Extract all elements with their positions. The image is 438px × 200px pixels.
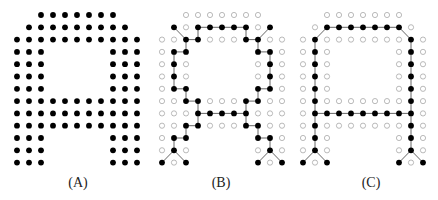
hollow-dot: [360, 123, 365, 128]
hollow-dot: [348, 37, 353, 42]
hollow-dot: [159, 62, 164, 67]
filled-dot: [312, 74, 318, 80]
hollow-dot: [255, 25, 260, 30]
hollow-dot: [372, 37, 377, 42]
filled-dot: [396, 24, 402, 30]
filled-dot: [267, 24, 273, 30]
filled-dot: [86, 98, 92, 104]
filled-dot: [219, 111, 225, 117]
hollow-dot: [396, 123, 401, 128]
filled-dot: [14, 49, 20, 55]
filled-dot: [312, 37, 318, 43]
filled-dot: [86, 12, 92, 18]
filled-dot: [62, 37, 68, 43]
hollow-dot: [267, 111, 272, 116]
dot-grid-figure: [0, 0, 438, 200]
hollow-dot: [231, 37, 236, 42]
hollow-dot: [408, 25, 413, 30]
filled-dot: [26, 160, 32, 166]
hollow-dot: [231, 123, 236, 128]
filled-dot: [38, 98, 44, 104]
filled-dot: [26, 86, 32, 92]
hollow-dot: [279, 86, 284, 91]
filled-dot: [74, 24, 80, 30]
hollow-dot: [171, 111, 176, 116]
filled-dot: [255, 98, 261, 104]
hollow-dot: [171, 37, 176, 42]
hollow-dot: [324, 86, 329, 91]
filled-dot: [14, 37, 20, 43]
hollow-dot: [255, 74, 260, 79]
hollow-dot: [372, 12, 377, 17]
hollow-dot: [267, 37, 272, 42]
hollow-dot: [159, 49, 164, 54]
hollow-dot: [324, 49, 329, 54]
hollow-dot: [396, 148, 401, 153]
filled-dot: [134, 160, 140, 166]
filled-dot: [267, 49, 273, 55]
filled-dot: [38, 135, 44, 141]
filled-dot: [122, 160, 128, 166]
hollow-dot: [231, 12, 236, 17]
filled-dot: [26, 147, 32, 153]
filled-dot: [207, 24, 213, 30]
filled-dot: [122, 135, 128, 141]
filled-dot: [38, 37, 44, 43]
filled-dot: [26, 111, 32, 117]
filled-dot: [348, 111, 354, 117]
hollow-dot: [171, 99, 176, 104]
filled-dot: [26, 37, 32, 43]
hollow-dot: [300, 148, 305, 153]
hollow-dot: [300, 135, 305, 140]
filled-dot: [26, 98, 32, 104]
filled-dot: [312, 111, 318, 117]
hollow-dot: [312, 160, 317, 165]
filled-dot: [408, 37, 414, 43]
filled-dot: [38, 123, 44, 129]
filled-dot: [183, 160, 189, 166]
filled-dot: [408, 86, 414, 92]
filled-dot: [243, 98, 249, 104]
filled-dot: [171, 49, 177, 55]
filled-dot: [110, 86, 116, 92]
filled-dot: [255, 49, 261, 55]
hollow-dot: [396, 86, 401, 91]
filled-dot: [312, 147, 318, 153]
filled-dot: [267, 74, 273, 80]
filled-dot: [38, 111, 44, 117]
filled-dot: [312, 86, 318, 92]
filled-dot: [38, 24, 44, 30]
hollow-dot: [396, 37, 401, 42]
hollow-dot: [300, 37, 305, 42]
filled-dot: [122, 98, 128, 104]
hollow-dot: [159, 99, 164, 104]
filled-dot: [38, 49, 44, 55]
filled-dot: [408, 98, 414, 104]
hollow-dot: [324, 123, 329, 128]
filled-dot: [312, 98, 318, 104]
filled-dot: [255, 37, 261, 43]
filled-dot: [134, 37, 140, 43]
hollow-dot: [420, 74, 425, 79]
filled-dot: [183, 49, 189, 55]
filled-dot: [171, 74, 177, 80]
panel-b-stair-path: [159, 12, 285, 165]
panel-a-label: (A): [68, 175, 87, 191]
filled-dot: [195, 98, 201, 104]
filled-dot: [98, 24, 104, 30]
filled-dot: [134, 147, 140, 153]
filled-dot: [134, 111, 140, 117]
filled-dot: [324, 24, 330, 30]
filled-dot: [98, 111, 104, 117]
filled-dot: [122, 61, 128, 67]
filled-dot: [122, 24, 128, 30]
hollow-dot: [372, 123, 377, 128]
filled-dot: [110, 37, 116, 43]
filled-dot: [384, 24, 390, 30]
filled-dot: [312, 123, 318, 129]
filled-dot: [62, 12, 68, 18]
filled-dot: [74, 111, 80, 117]
hollow-dot: [300, 62, 305, 67]
hollow-dot: [207, 37, 212, 42]
filled-dot: [408, 123, 414, 129]
